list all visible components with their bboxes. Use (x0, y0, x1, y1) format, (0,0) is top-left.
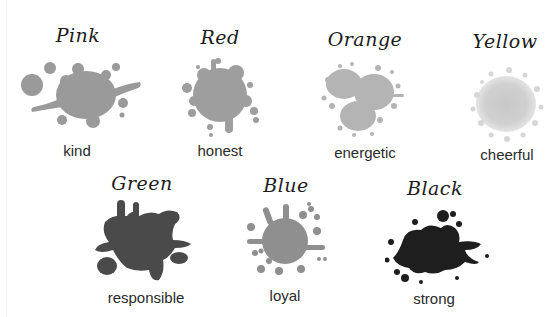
color-title: Blue (263, 174, 309, 196)
color-trait: loyal (270, 287, 301, 304)
pink-splat-icon (18, 55, 143, 130)
color-title: Red (200, 26, 239, 48)
color-title: Orange (328, 28, 403, 50)
color-title: Black (407, 177, 463, 199)
blue-splat-icon (245, 201, 327, 281)
color-title: Pink (56, 24, 101, 46)
color-trait: responsible (108, 289, 185, 306)
color-trait: strong (413, 290, 455, 307)
color-trait: kind (63, 142, 91, 159)
color-trait: honest (197, 142, 242, 159)
color-title: Green (111, 172, 173, 194)
page-edge (6, 0, 7, 317)
color-title: Yellow (473, 30, 538, 52)
color-trait: cheerful (480, 146, 533, 163)
red-splat-icon (180, 55, 262, 140)
black-splat-icon (385, 210, 490, 285)
green-splat-icon (93, 200, 193, 285)
orange-splat-icon (318, 58, 406, 138)
yellow-splat-icon (465, 65, 547, 143)
color-trait: energetic (334, 144, 396, 161)
